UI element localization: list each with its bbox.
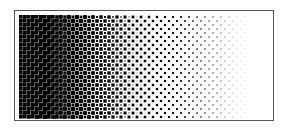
- halftone-gradient: [19, 15, 272, 119]
